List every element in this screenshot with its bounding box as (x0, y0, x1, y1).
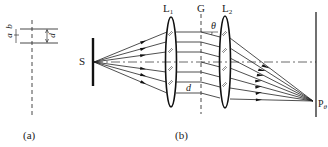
label-lens-l1-sub: 1 (170, 8, 174, 16)
label-grating-g: G (197, 3, 205, 14)
label-angle-theta: θ (211, 21, 216, 31)
label-point-p-theta: Pθ (318, 99, 327, 111)
caption-b: (b) (175, 130, 188, 141)
diagram-canvas (0, 0, 328, 147)
diffraction-grating-figure: b a d (a) S L1 G L2 θ d Pθ (b) (0, 0, 328, 147)
label-lens-l1: L1 (163, 3, 173, 16)
label-source-s: S (79, 56, 85, 67)
label-spacing-d: d (186, 83, 191, 93)
label-d-a: d (48, 33, 57, 38)
label-lens-l1-main: L (163, 2, 170, 14)
label-lens-l2-main: L (222, 2, 229, 14)
caption-a: (a) (23, 130, 35, 141)
panel-b-setup (93, 12, 316, 117)
label-b: b (5, 24, 14, 29)
label-a: a (5, 33, 14, 38)
label-point-p-sub: θ (324, 103, 327, 111)
label-lens-l2: L2 (222, 3, 232, 16)
label-lens-l2-sub: 2 (229, 8, 233, 16)
